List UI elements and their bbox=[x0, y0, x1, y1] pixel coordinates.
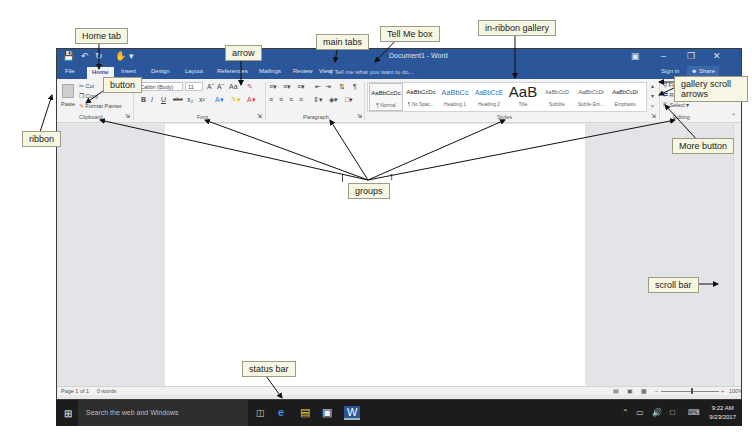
strikethrough-button[interactable]: abc bbox=[173, 96, 183, 102]
show-hidden-icons-icon[interactable]: ⌃ bbox=[622, 408, 629, 417]
text-effects-icon[interactable]: A▾ bbox=[215, 96, 224, 104]
collapse-ribbon-icon[interactable]: ⌃ bbox=[731, 113, 736, 119]
customize-qat-icon[interactable]: ▾ bbox=[129, 51, 134, 61]
multilevel-list-icon[interactable]: ≡▾ bbox=[297, 83, 305, 91]
grow-font-button[interactable]: Aˆ bbox=[207, 83, 214, 90]
highlight-color-icon[interactable]: ✎▾ bbox=[231, 96, 241, 104]
document-page[interactable]: I bbox=[165, 124, 585, 386]
styles-launcher-icon[interactable]: ⇲ bbox=[651, 113, 656, 119]
justify-icon[interactable]: ≡ bbox=[299, 96, 303, 103]
style-heading-2[interactable]: AaBbCcE Heading 2 bbox=[472, 83, 506, 111]
tab-file[interactable]: File bbox=[65, 68, 75, 74]
zoom-level[interactable]: 100% bbox=[729, 388, 742, 394]
paragraph-launcher-icon[interactable]: ⇲ bbox=[357, 113, 362, 119]
font-name-dropdown[interactable]: Calibri (Body) bbox=[137, 82, 183, 91]
align-right-icon[interactable]: ≡ bbox=[289, 96, 293, 103]
font-launcher-icon[interactable]: ⇲ bbox=[257, 113, 262, 119]
edge-browser-icon[interactable]: e bbox=[278, 406, 284, 418]
word-taskbar-icon[interactable]: W bbox=[344, 406, 360, 420]
minimize-icon[interactable]: – bbox=[661, 51, 666, 61]
clear-formatting-icon[interactable]: ✎ bbox=[247, 83, 253, 91]
group-divider bbox=[659, 82, 660, 120]
numbering-icon[interactable]: ≡▾ bbox=[283, 83, 291, 91]
format-painter-button[interactable]: ✎ Format Painter bbox=[79, 103, 122, 109]
file-explorer-icon[interactable]: ▤ bbox=[300, 406, 310, 419]
italic-button[interactable]: I bbox=[151, 96, 153, 103]
touch-mode-icon[interactable]: ✋ bbox=[115, 51, 126, 61]
select-button[interactable]: ⇱ Select ▾ bbox=[663, 102, 689, 108]
group-label-styles: Styles bbox=[497, 114, 512, 120]
zoom-in-icon[interactable]: + bbox=[721, 388, 724, 394]
tab-insert[interactable]: Insert bbox=[121, 68, 136, 74]
taskbar-clock[interactable]: 9:22 AM 9/23/2017 bbox=[709, 404, 736, 422]
action-center-icon[interactable]: □ bbox=[670, 408, 675, 417]
undo-icon[interactable]: ↶ bbox=[81, 51, 89, 61]
style-subtle-emphasis[interactable]: AaBbCcDi Subtle Em... bbox=[574, 83, 608, 111]
page-count[interactable]: Page 1 of 1 bbox=[61, 388, 89, 394]
copy-button[interactable]: ❐ Copy bbox=[79, 93, 98, 99]
paste-icon[interactable] bbox=[62, 84, 74, 98]
read-mode-icon[interactable]: ▤ bbox=[613, 388, 619, 394]
zoom-slider[interactable] bbox=[661, 391, 719, 392]
font-color-icon[interactable]: A▾ bbox=[247, 96, 256, 104]
cut-button[interactable]: ✂ Cut bbox=[79, 83, 94, 89]
bullets-icon[interactable]: ≡▾ bbox=[269, 83, 277, 91]
ribbon-display-icon[interactable]: ▣ bbox=[631, 51, 640, 61]
save-icon[interactable]: 💾 bbox=[63, 51, 74, 61]
style-subtitle[interactable]: AaBbCcD Subtitle bbox=[540, 83, 574, 111]
print-layout-icon[interactable]: ▣ bbox=[627, 388, 633, 394]
show-formatting-icon[interactable]: ¶ bbox=[353, 83, 357, 90]
zoom-slider-thumb[interactable] bbox=[691, 388, 693, 394]
font-size-dropdown[interactable]: 11 bbox=[185, 82, 203, 91]
redo-icon[interactable]: ↻ bbox=[95, 51, 103, 61]
sort-icon[interactable]: ⇅ bbox=[339, 83, 345, 91]
center-icon[interactable]: ≡ bbox=[279, 96, 283, 103]
align-left-icon[interactable]: ≡ bbox=[269, 96, 273, 103]
taskbar-search-box[interactable]: Search the web and Windows bbox=[78, 400, 248, 426]
network-icon[interactable]: ▭ bbox=[636, 408, 644, 417]
task-view-icon[interactable]: ◫ bbox=[256, 408, 265, 418]
style-heading-1[interactable]: AaBbCc Heading 1 bbox=[438, 83, 472, 111]
tab-references[interactable]: References bbox=[217, 68, 248, 74]
shading-icon[interactable]: ◈▾ bbox=[329, 96, 338, 104]
underline-button[interactable]: U bbox=[161, 96, 166, 103]
tab-mailings[interactable]: Mailings bbox=[259, 68, 281, 74]
gallery-scroll-up-arrow[interactable]: ▴ bbox=[648, 82, 656, 91]
line-spacing-icon[interactable]: ⇕▾ bbox=[313, 96, 323, 104]
borders-icon[interactable]: □▾ bbox=[345, 96, 353, 104]
bold-button[interactable]: B bbox=[141, 96, 146, 103]
volume-icon[interactable]: 🔊 bbox=[652, 408, 662, 417]
tab-design[interactable]: Design bbox=[151, 68, 170, 74]
keyboard-icon[interactable]: ⌨ bbox=[688, 408, 700, 417]
gallery-more-button[interactable]: ▿ bbox=[648, 102, 656, 111]
close-icon[interactable]: ✕ bbox=[713, 51, 721, 61]
sign-in-link[interactable]: Sign in bbox=[661, 68, 679, 74]
restore-icon[interactable]: ❐ bbox=[687, 51, 695, 61]
word-count[interactable]: 0 words bbox=[97, 388, 116, 394]
share-button[interactable]: ☻ Share bbox=[687, 66, 719, 76]
callout-arrow: arrow bbox=[225, 45, 262, 61]
style-title[interactable]: AaB Title bbox=[506, 83, 540, 111]
gallery-scroll-down-arrow[interactable]: ▾ bbox=[648, 92, 656, 101]
web-layout-icon[interactable]: ▩ bbox=[641, 388, 647, 394]
callout-in-ribbon-gallery: in-ribbon gallery bbox=[478, 20, 556, 36]
change-case-button[interactable]: Aa bbox=[229, 83, 238, 90]
increase-indent-icon[interactable]: ⇥ bbox=[325, 83, 331, 91]
store-icon[interactable]: ▣ bbox=[322, 406, 332, 419]
tell-me-box[interactable]: ⚲ Tell me what you want to do... bbox=[329, 68, 414, 75]
decrease-indent-icon[interactable]: ⇤ bbox=[315, 83, 321, 91]
style-normal[interactable]: AaBbCcDc ¶ Normal bbox=[369, 83, 403, 111]
clipboard-launcher-icon[interactable]: ⇲ bbox=[125, 113, 130, 119]
subscript-button[interactable]: x₂ bbox=[187, 96, 193, 103]
paste-button[interactable]: Paste bbox=[61, 101, 75, 107]
callout-groups: groups bbox=[348, 183, 390, 199]
style-no-spacing[interactable]: AaBbCcDc ¶ No Spac... bbox=[404, 83, 438, 111]
tab-layout[interactable]: Layout bbox=[185, 68, 203, 74]
windows-start-icon[interactable]: ⊞ bbox=[64, 408, 72, 419]
style-emphasis[interactable]: AaBbCcDi Emphasis bbox=[608, 83, 642, 111]
vertical-scroll-bar[interactable] bbox=[733, 124, 741, 386]
superscript-button[interactable]: x² bbox=[199, 96, 205, 103]
zoom-out-icon[interactable]: – bbox=[655, 388, 658, 394]
shrink-font-button[interactable]: Aˇ bbox=[217, 83, 224, 90]
tab-review[interactable]: Review bbox=[293, 68, 313, 74]
